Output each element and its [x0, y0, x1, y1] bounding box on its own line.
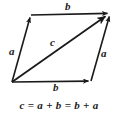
vector-addition-figure: b a c a b c = a + b = b + a [0, 0, 118, 124]
vector-label-b-top: b [65, 1, 71, 12]
vector-label-a-left: a [9, 46, 15, 57]
vector-b-bottom [12, 81, 89, 82]
vector-label-c-diagonal: c [50, 37, 55, 48]
vector-label-b-bottom: b [53, 82, 59, 93]
vector-b-top [31, 13, 108, 15]
vector-c-diagonal [12, 16, 106, 82]
vector-addition-equation: c = a + b = b + a [0, 98, 118, 112]
vector-label-a-right: a [101, 48, 107, 59]
